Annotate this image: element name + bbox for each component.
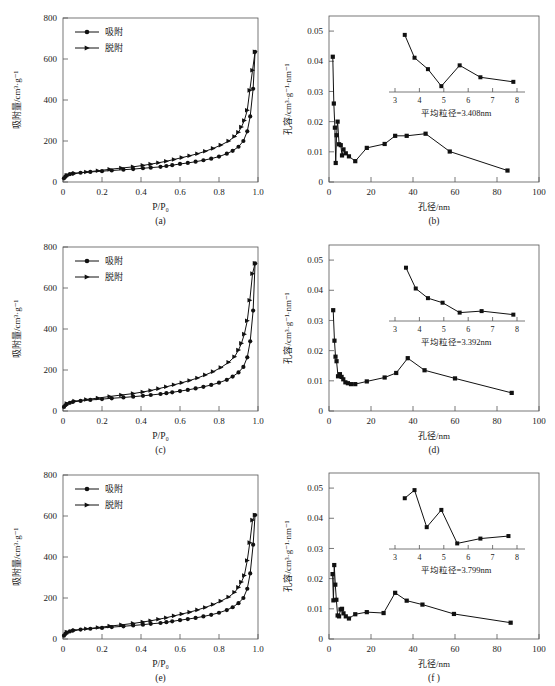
data-point xyxy=(186,617,190,621)
data-point xyxy=(248,571,252,575)
data-point xyxy=(187,153,192,158)
legend-marker-desorption xyxy=(85,46,90,51)
data-point xyxy=(236,130,241,135)
data-point xyxy=(194,616,198,620)
y-tick-label: 0.03 xyxy=(307,316,323,326)
psd-plot-d: 00.010.020.030.040.05020406080100孔径/nm孔容… xyxy=(277,229,554,458)
x-tick-label: 40 xyxy=(409,644,419,654)
inset-series-line xyxy=(405,490,509,543)
inset-x-tick-label: 6 xyxy=(466,553,470,562)
x-tick-label: 0.8 xyxy=(213,416,225,426)
data-point xyxy=(383,142,387,146)
y-tick-label: 0.05 xyxy=(307,255,323,265)
inset-series-line xyxy=(405,35,514,86)
x-tick-label: 1.0 xyxy=(252,187,264,197)
data-point xyxy=(353,382,357,386)
data-point xyxy=(333,583,337,587)
inset-data-point xyxy=(458,311,462,315)
data-point xyxy=(333,126,337,130)
data-point xyxy=(195,376,200,381)
data-point xyxy=(180,155,185,160)
legend-marker-adsorption xyxy=(85,259,90,264)
data-point xyxy=(405,599,409,603)
data-point xyxy=(232,354,237,359)
isotherm-plot-e: 020040060080000.20.40.60.81.0P/P₀吸附量/cm³… xyxy=(0,457,277,686)
x-axis-title: 孔径/nm xyxy=(418,201,450,212)
x-tick-label: 20 xyxy=(367,187,377,197)
x-tick-label: 20 xyxy=(367,416,377,426)
x-tick-label: 0.6 xyxy=(174,644,186,654)
data-point xyxy=(141,394,145,398)
x-tick-label: 100 xyxy=(532,416,546,426)
inset-data-point xyxy=(414,287,418,291)
data-point xyxy=(164,391,168,395)
data-point xyxy=(201,614,205,618)
y-axis-title: 孔容/cm³·g⁻¹·nm⁻¹ xyxy=(282,292,293,363)
x-tick-label: 80 xyxy=(493,187,503,197)
data-point xyxy=(178,389,182,393)
data-point xyxy=(248,114,252,118)
series-line-pore-volume xyxy=(333,310,512,393)
legend-label-adsorption: 吸附 xyxy=(105,26,123,37)
data-point xyxy=(84,170,89,175)
inset-data-point xyxy=(426,67,430,71)
y-axis-title: 吸附量/cm³·g⁻¹ xyxy=(11,528,22,586)
y-tick-label: 0.04 xyxy=(307,56,323,66)
x-tick-label: 100 xyxy=(532,187,546,197)
x-axis-title: P/P₀ xyxy=(152,202,169,212)
x-tick-label: 0.8 xyxy=(213,644,225,654)
data-point xyxy=(225,378,229,382)
data-point xyxy=(187,610,192,615)
data-point xyxy=(194,386,198,390)
data-point xyxy=(209,157,213,161)
inset-x-tick-label: 8 xyxy=(515,96,519,105)
panel-label: (a) xyxy=(155,216,166,227)
plot-frame xyxy=(329,16,539,182)
inset-x-tick-label: 8 xyxy=(515,325,519,334)
data-point xyxy=(186,161,190,165)
y-tick-label: 0.05 xyxy=(307,26,323,36)
data-point xyxy=(141,390,146,395)
data-point xyxy=(72,171,77,176)
y-tick-label: 0.01 xyxy=(307,604,323,614)
data-point xyxy=(156,386,161,391)
data-point xyxy=(405,134,409,138)
x-tick-label: 60 xyxy=(451,644,461,654)
x-tick-label: 0.2 xyxy=(96,187,107,197)
data-point xyxy=(219,599,224,604)
y-tick-label: 0 xyxy=(53,634,58,644)
data-point xyxy=(164,164,168,168)
data-point xyxy=(180,380,185,385)
inset-x-tick-label: 3 xyxy=(393,96,397,105)
inset-data-point xyxy=(478,75,482,79)
inset-x-tick-label: 3 xyxy=(393,325,397,334)
y-tick-label: 200 xyxy=(44,593,58,603)
data-point xyxy=(505,168,509,172)
data-point xyxy=(331,308,335,312)
data-point xyxy=(330,572,334,576)
series-line-desorption xyxy=(67,515,255,632)
isotherm-plot-c: 020040060080000.20.40.60.81.0P/P₀吸附量/cm³… xyxy=(0,229,277,458)
data-point xyxy=(236,348,241,353)
data-point xyxy=(394,371,398,375)
data-point xyxy=(236,601,240,605)
inset-data-point xyxy=(403,33,407,37)
x-tick-label: 0 xyxy=(61,416,66,426)
panel-label: (d) xyxy=(428,445,439,456)
y-tick-label: 0.02 xyxy=(307,117,323,127)
data-point xyxy=(84,626,89,631)
inset-data-point xyxy=(413,488,417,492)
data-point xyxy=(347,616,351,620)
y-tick-label: 800 xyxy=(44,242,58,252)
data-point xyxy=(209,383,213,387)
x-tick-label: 40 xyxy=(409,187,419,197)
legend-label-desorption: 脱附 xyxy=(105,271,123,282)
data-point xyxy=(245,355,249,359)
y-tick-label: 0 xyxy=(319,634,324,644)
series-line-desorption xyxy=(67,263,255,403)
x-tick-label: 100 xyxy=(532,644,546,654)
data-point xyxy=(334,598,338,602)
data-point xyxy=(251,543,255,547)
data-point xyxy=(332,339,336,343)
inset-x-tick-label: 5 xyxy=(442,96,446,105)
